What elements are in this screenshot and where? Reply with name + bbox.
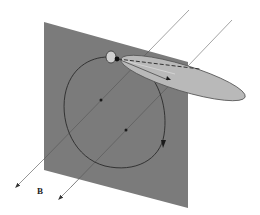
spot [106,51,116,63]
diagram-canvas: B [0,0,260,215]
field-line-2-marker [125,129,128,132]
field-label: B [37,186,43,196]
field-line-2-lower [60,187,71,198]
source-dot [115,57,120,62]
field-line-2-upper [188,20,232,66]
plane [44,22,188,208]
field-line-1-lower [17,159,44,186]
field-line-1-upper [150,10,189,50]
field-line-1-marker [100,99,103,102]
